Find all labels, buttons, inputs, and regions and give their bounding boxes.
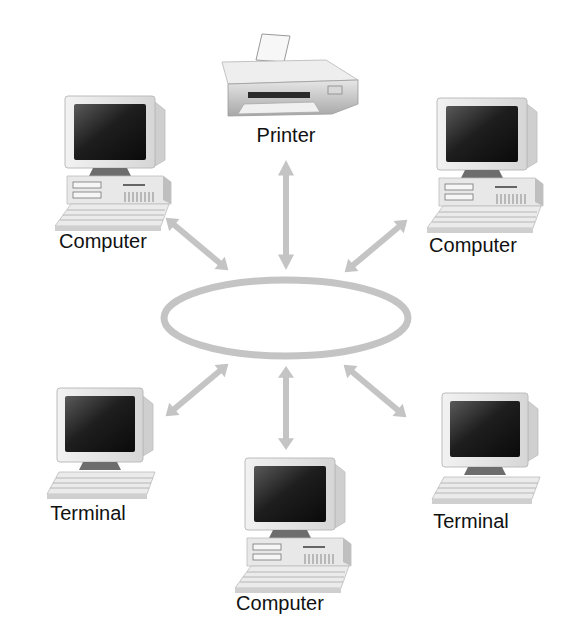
computer-bottom-icon	[235, 458, 351, 593]
link-arrow-terminal-bottom-left	[160, 358, 233, 423]
link-arrow-printer	[278, 160, 294, 270]
terminal-bottom-left-icon	[47, 388, 155, 499]
label-terminal-bottom-right: Terminal	[433, 510, 509, 533]
computer-top-right-icon	[427, 98, 543, 233]
label-computer-top-left: Computer	[59, 230, 147, 253]
printer-icon	[222, 34, 358, 116]
network-ring	[164, 280, 408, 356]
label-computer-top-right: Computer	[429, 234, 517, 257]
link-arrow-computer-top-right	[339, 214, 412, 279]
label-computer-bottom: Computer	[236, 592, 324, 615]
label-terminal-bottom-left: Terminal	[50, 502, 126, 525]
computer-top-left-icon	[55, 96, 171, 231]
link-arrow-computer-bottom	[278, 366, 294, 450]
link-arrow-computer-top-left	[160, 212, 233, 277]
terminal-bottom-right-icon	[432, 393, 540, 504]
ring-network-diagram	[0, 0, 561, 631]
label-printer: Printer	[257, 124, 316, 147]
link-arrow-terminal-bottom-right	[338, 359, 411, 424]
